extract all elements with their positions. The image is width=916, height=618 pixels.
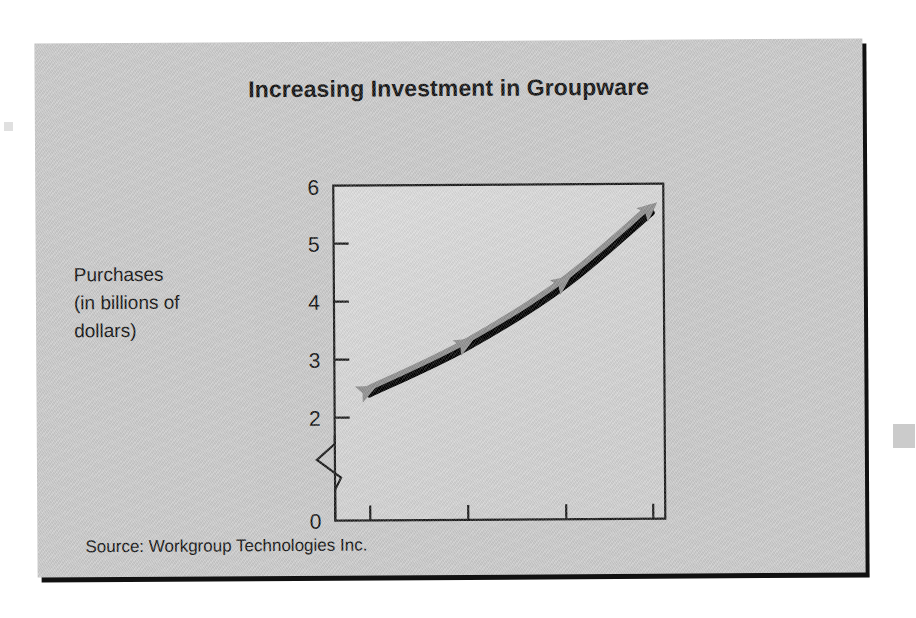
x-tick-label-1998: 1998 (632, 535, 675, 539)
source-note: Source: Workgroup Technologies Inc. (85, 536, 367, 558)
line-chart-svg: 6 5 4 3 2 0 1995 1996 1997 1998 (253, 136, 675, 539)
y-tick-label-4: 4 (308, 291, 320, 314)
y-axis-caption-line-3: dollars) (74, 316, 264, 345)
figure-panel: Increasing Investment in Groupware Purch… (34, 38, 865, 577)
x-tick-labels: 1995 1996 1997 1998 (348, 535, 675, 539)
scan-artifact-smudge (893, 424, 915, 448)
screenshot-canvas: Increasing Investment in Groupware Purch… (0, 0, 916, 618)
scan-artifact-fleck (4, 122, 13, 131)
y-tick-label-5: 5 (308, 233, 320, 256)
y-axis-caption-line-1: Purchases (74, 260, 264, 289)
y-tick-labels: 6 5 4 3 2 0 (308, 176, 322, 533)
y-axis-caption-line-2: (in billions of (74, 288, 264, 317)
y-tick-label-3: 3 (309, 349, 321, 372)
y-tick-label-6: 6 (308, 176, 320, 199)
x-tick-label-1997: 1997 (544, 535, 591, 538)
y-tick-label-2: 2 (309, 407, 321, 430)
x-tick-label-1996: 1996 (446, 536, 493, 538)
y-tick-label-0: 0 (310, 510, 322, 533)
plot-area: 6 5 4 3 2 0 1995 1996 1997 1998 (253, 136, 675, 539)
chart-title: Increasing Investment in Groupware (35, 72, 863, 104)
y-axis-caption: Purchases (in billions of dollars) (74, 260, 265, 345)
